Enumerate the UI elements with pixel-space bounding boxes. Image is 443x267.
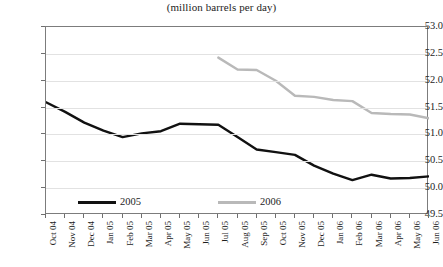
x-axis-tick (83, 214, 84, 218)
x-axis-label: Jul 05 (221, 221, 230, 243)
x-axis-label: Jun 05 (202, 221, 211, 245)
y-axis-tick (41, 107, 45, 108)
y-axis-label: 52.0 (403, 75, 443, 86)
x-axis-label: Apr 05 (164, 221, 173, 246)
x-axis-tick (198, 214, 199, 218)
gridline (46, 54, 427, 55)
x-axis-label: Mar 06 (375, 221, 384, 247)
series-line-2006 (218, 58, 429, 119)
x-axis-label: Aug 05 (241, 221, 250, 248)
y-axis-tick (41, 133, 45, 134)
x-axis-tick (390, 214, 391, 218)
x-axis-label: Feb 06 (355, 221, 364, 246)
x-axis-tick (313, 214, 314, 218)
y-axis-tick (41, 187, 45, 188)
x-axis-label: Apr 06 (394, 221, 403, 246)
y-axis-tick (41, 160, 45, 161)
x-axis-tick (256, 214, 257, 218)
y-axis-label: 52.5 (403, 48, 443, 59)
x-axis-tick (179, 214, 180, 218)
legend-swatch-2005 (78, 201, 116, 204)
x-axis-label: May 05 (183, 221, 192, 249)
x-axis-tick (141, 214, 142, 218)
y-axis-label: 50.5 (403, 155, 443, 166)
y-axis-label: 50.0 (403, 182, 443, 193)
x-axis-tick (428, 214, 429, 218)
x-axis-tick (294, 214, 295, 218)
plot-area (45, 26, 428, 214)
x-axis-label: Nov 04 (68, 221, 77, 248)
x-axis-tick (64, 214, 65, 218)
y-axis-tick (41, 26, 45, 27)
x-axis-tick (275, 214, 276, 218)
x-axis-label: Nov 05 (298, 221, 307, 248)
x-axis-label: Jun 06 (432, 221, 441, 245)
chart-legend: 20052006 (78, 195, 338, 211)
y-axis-label: 51.5 (403, 102, 443, 113)
y-axis-label: 51.0 (403, 128, 443, 139)
x-axis-label: Feb 05 (126, 221, 135, 246)
series-lines (46, 27, 429, 215)
y-axis-label: 53.0 (403, 21, 443, 32)
x-axis-label: Sep 05 (260, 221, 269, 246)
x-axis-tick (217, 214, 218, 218)
chart-container: (million barrels per day) 20052006 53.05… (0, 0, 443, 267)
x-axis-label: Dec 05 (317, 221, 326, 247)
x-axis-tick (102, 214, 103, 218)
x-axis-label: Jan 05 (106, 221, 115, 244)
y-axis-tick (41, 53, 45, 54)
y-axis-tick (41, 80, 45, 81)
gridline (46, 81, 427, 82)
legend-label-2005: 2005 (120, 195, 141, 209)
x-axis-label: Dec 04 (87, 221, 96, 247)
legend-label-2006: 2006 (260, 195, 281, 209)
x-axis-label: May 06 (413, 221, 422, 249)
x-axis-tick (160, 214, 161, 218)
x-axis-label: Jan 06 (336, 221, 345, 244)
x-axis-tick (332, 214, 333, 218)
gridline (46, 108, 427, 109)
x-axis-label: Oct 04 (49, 221, 58, 245)
chart-title: (million barrels per day) (0, 1, 443, 13)
x-axis-tick (45, 214, 46, 218)
x-axis-tick (122, 214, 123, 218)
x-axis-label: Mar 05 (145, 221, 154, 247)
legend-swatch-2006 (218, 201, 256, 204)
gridline (46, 161, 427, 162)
x-axis-tick (371, 214, 372, 218)
x-axis-tick (351, 214, 352, 218)
gridline (46, 188, 427, 189)
x-axis-tick (409, 214, 410, 218)
gridline (46, 134, 427, 135)
x-axis-label: Oct 05 (279, 221, 288, 245)
x-axis-tick (237, 214, 238, 218)
